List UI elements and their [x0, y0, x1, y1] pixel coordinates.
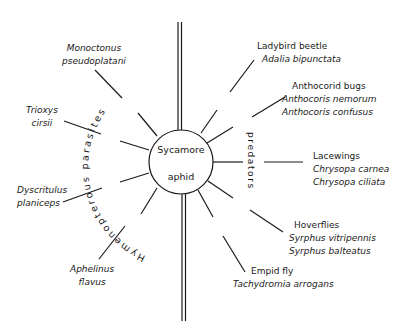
predator-hoverflies: Hoverflies Syrphus vitripennis Syrphus b…	[289, 219, 376, 258]
predator-species: Tachydromia arrogans	[233, 278, 334, 291]
predator-species: Chrysopa carnea	[313, 163, 389, 176]
predator-common-name: Lacewings	[313, 150, 389, 163]
predator-species: Syrphus balteatus	[289, 245, 376, 258]
tree-trunk-top	[178, 22, 182, 130]
parasite-aphelinus: Aphelinus flavus	[70, 263, 114, 289]
parasite-genus: Monoctonus	[62, 42, 126, 55]
predator-species: Syrphus vitripennis	[289, 232, 376, 245]
predator-common-name: Anthocorid bugs	[282, 80, 377, 93]
parasite-trioxys: Trioxys cirsii	[26, 104, 58, 130]
predator-lacewings: Lacewings Chrysopa carnea Chrysopa cilia…	[313, 150, 389, 189]
predator-common-name: Empid fly	[233, 265, 334, 278]
parasite-genus: Dyscritulus	[17, 184, 67, 197]
tree-trunk-bottom	[182, 194, 186, 321]
predator-empid: Empid fly Tachydromia arrogans	[233, 265, 334, 291]
predator-common-name: Hoverflies	[289, 219, 376, 232]
parasite-genus: Aphelinus	[70, 263, 114, 276]
parasite-inner-spokes	[120, 113, 157, 214]
predator-species: Chrysopa ciliata	[313, 176, 389, 189]
parasite-monoctonus: Monoctonus pseudoplatani	[62, 42, 126, 68]
predator-anthocorid: Anthocorid bugs Anthocoris nemorum Antho…	[282, 80, 377, 119]
parasite-species: flavus	[70, 276, 114, 289]
parasite-species: pseudoplatani	[62, 55, 126, 68]
predator-species: Anthocoris confusus	[282, 106, 377, 119]
parasite-genus: Trioxys	[26, 104, 58, 117]
center-label-line1: Sycamore	[146, 144, 216, 155]
predators-group-label: predators	[246, 132, 256, 190]
parasite-outer-spokes	[63, 70, 125, 259]
predator-inner-spokes	[198, 110, 243, 217]
aphid-circle	[149, 130, 213, 194]
predator-species: Adalia bipunctata	[257, 53, 341, 66]
parasite-dyscritulus: Dyscritulus planiceps	[17, 184, 67, 210]
predator-species: Anthocoris nemorum	[282, 93, 377, 106]
parasite-species: cirsii	[26, 117, 58, 130]
center-label-line2: aphid	[146, 171, 216, 182]
predator-ladybird: Ladybird beetle Adalia bipunctata	[257, 40, 341, 66]
parasite-species: planiceps	[17, 197, 67, 210]
predator-common-name: Ladybird beetle	[257, 40, 341, 53]
parasites-group-label: Hymenopterous parasites	[79, 105, 147, 265]
